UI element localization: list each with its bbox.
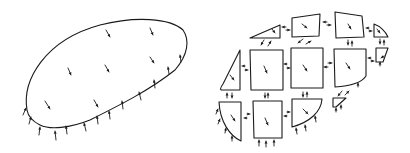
body-force-arrow-icon — [106, 30, 110, 37]
diagram-canvas — [0, 0, 410, 153]
boundary-traction-arrow-icon — [218, 119, 221, 124]
piece-bottom-left-wedge — [219, 102, 241, 141]
body-force-arrow-icon — [303, 65, 307, 71]
body-force-arrow-icon — [346, 63, 350, 69]
piece-top-right-cap — [374, 24, 388, 37]
interface-traction-arrow-icon — [369, 30, 372, 33]
interface-traction-arrow-icon — [284, 115, 287, 118]
piece-top-left-wedge — [250, 25, 280, 38]
interface-traction-arrow-icon — [306, 41, 311, 44]
interface-traction-arrow-icon — [282, 26, 286, 29]
body-outline — [26, 19, 187, 127]
interface-traction-arrow-icon — [264, 93, 267, 98]
piece-top-mid-right — [335, 12, 364, 38]
decomposed-body-pieces — [216, 12, 388, 147]
traction-arrow-icon — [54, 131, 57, 140]
body-force-arrow-icon — [230, 75, 234, 80]
interface-traction-arrow-icon — [268, 41, 271, 46]
piece-top-mid-left — [292, 14, 320, 37]
interface-traction-arrow-icon — [242, 65, 245, 68]
interface-traction-arrow-icon — [284, 63, 287, 66]
piece-mid-a — [250, 50, 283, 90]
boundary-traction-arrow-icon — [231, 136, 234, 141]
body-force-arrow-icon — [231, 115, 235, 121]
traction-arrow-icon — [167, 67, 170, 74]
boundary-traction-arrow-icon — [314, 116, 317, 122]
boundary-traction-arrow-icon — [381, 55, 384, 58]
body-force-arrow-icon — [302, 24, 307, 28]
boundary-traction-arrow-icon — [335, 108, 338, 112]
boundary-traction-arrow-icon — [340, 105, 343, 109]
interface-traction-arrow-icon — [379, 39, 382, 44]
body-force-arrow-icon — [264, 66, 267, 73]
interface-traction-arrow-icon — [328, 62, 332, 65]
boundary-traction-arrow-icon — [357, 83, 360, 87]
piece-bottom-a — [253, 101, 282, 138]
interface-traction-arrow-icon — [338, 91, 342, 96]
body-force-arrow-icon — [105, 65, 109, 72]
interface-traction-arrow-icon — [383, 40, 386, 45]
traction-arrow-icon — [121, 101, 124, 109]
body-force-arrow-icon — [303, 109, 308, 114]
interface-traction-arrow-icon — [324, 66, 328, 69]
interface-traction-arrow-icon — [267, 93, 270, 98]
body-force-arrow-icon — [68, 68, 71, 75]
boundary-traction-arrow-icon — [304, 125, 307, 131]
interface-traction-arrow-icon — [323, 21, 327, 24]
interface-traction-arrow-icon — [231, 93, 234, 98]
interface-traction-arrow-icon — [226, 93, 229, 98]
free-body-decomposition-diagram — [0, 0, 410, 153]
interface-traction-arrow-icon — [245, 69, 248, 72]
interface-traction-arrow-icon — [261, 40, 264, 45]
interface-traction-arrow-icon — [327, 24, 331, 27]
body-force-arrow-icon — [272, 29, 275, 33]
piece-mid-left-wedge — [221, 50, 240, 90]
interface-traction-arrow-icon — [286, 29, 290, 32]
traction-arrow-icon — [108, 111, 111, 119]
piece-mid-right-small — [376, 48, 388, 62]
interface-traction-arrow-icon — [306, 92, 309, 97]
traction-arrow-icon — [38, 127, 41, 135]
interface-traction-arrow-icon — [244, 117, 247, 120]
interface-traction-arrow-icon — [347, 40, 350, 45]
boundary-traction-arrow-icon — [265, 141, 268, 147]
boundary-traction-arrow-icon — [295, 128, 298, 134]
boundary-traction-arrow-icon — [224, 128, 227, 133]
boundary-traction-arrow-icon — [216, 109, 219, 114]
boundary-traction-arrow-icon — [258, 140, 261, 146]
piece-bottom-small — [333, 98, 346, 107]
traction-arrow-icon — [23, 108, 26, 115]
body-force-arrow-icon — [348, 24, 351, 29]
interface-traction-arrow-icon — [368, 57, 371, 60]
interface-traction-arrow-icon — [366, 27, 369, 30]
interface-traction-arrow-icon — [302, 92, 305, 97]
interface-traction-arrow-icon — [287, 111, 290, 114]
body-force-arrow-icon — [150, 28, 153, 35]
piece-mid-b — [291, 48, 323, 88]
interface-traction-arrow-icon — [351, 41, 354, 46]
piece-mid-c — [334, 49, 366, 87]
boundary-traction-arrow-icon — [273, 140, 276, 146]
interface-traction-arrow-icon — [247, 113, 250, 116]
continuous-body — [23, 19, 187, 140]
boundary-traction-arrow-icon — [379, 62, 382, 66]
body-force-arrow-icon — [150, 57, 154, 63]
interface-traction-arrow-icon — [345, 91, 349, 95]
interface-traction-arrow-icon — [371, 60, 374, 63]
body-force-arrow-icon — [377, 29, 380, 33]
interface-traction-arrow-icon — [287, 67, 290, 70]
body-force-arrow-icon — [94, 100, 98, 107]
body-force-arrow-icon — [265, 118, 268, 125]
body-force-arrow-icon — [45, 101, 50, 109]
piece-bottom-b — [292, 99, 322, 127]
interface-traction-arrow-icon — [298, 39, 303, 43]
traction-arrow-icon — [83, 123, 86, 131]
